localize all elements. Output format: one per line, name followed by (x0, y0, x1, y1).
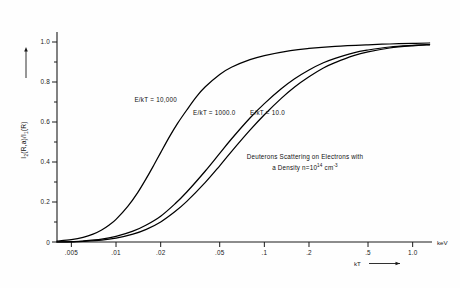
x-tick-label: .1 (261, 249, 267, 256)
curve-e-kt-10000 (57, 43, 430, 241)
caption-cm-text: cm (323, 164, 334, 171)
x-tick-label: .2 (306, 249, 312, 256)
caption-line-2: a Density n=1014 cm-3 (272, 163, 338, 172)
x-axis-title: kT (354, 260, 361, 267)
x-axis-unit-label: keV (437, 239, 449, 246)
curve-label-10000: E/kT = 10,000 (134, 96, 177, 103)
curve-label-10: E/kT = 10.0 (250, 109, 285, 116)
y-axis-arrow-head (24, 47, 28, 52)
y-tick-label: 0.4 (41, 158, 51, 165)
figure-container: 0.20.40.60.81.0 .005.01.02.05.1.2.51.0 E… (0, 0, 460, 288)
y-axis-ticks (52, 42, 57, 242)
x-axis-tick-labels: .005.01.02.05.1.2.51.0 (65, 249, 418, 256)
caption-density-text: a Density n=10 (272, 164, 317, 172)
y-axis-title: I2(R,a)/I1(R) (20, 121, 29, 158)
x-tick-label: .05 (215, 249, 225, 256)
x-tick-label: 1.0 (408, 249, 418, 256)
origin-label: 0 (46, 239, 50, 246)
curve-e-kt-10 (57, 45, 430, 242)
y-title-part-3: (R) (20, 121, 28, 131)
curve-e-kt-1000 (57, 45, 430, 242)
caption-exponent-minus3: -3 (333, 163, 338, 168)
y-tick-label: 1.0 (41, 38, 51, 45)
y-axis-tick-labels: 0.20.40.60.81.0 (41, 38, 51, 205)
x-tick-label: .01 (111, 249, 121, 256)
y-title-part-2: (R,a)/I (20, 134, 28, 154)
y-tick-label: 0.6 (41, 118, 51, 125)
x-axis-ticks (71, 242, 412, 247)
caption-line-1: Deuterons Scattering on Electrons with (247, 153, 364, 161)
curve-label-1000: E/kT = 1000.0 (193, 109, 236, 116)
y-tick-label: 0.2 (41, 198, 51, 205)
chart-canvas: 0.20.40.60.81.0 .005.01.02.05.1.2.51.0 E… (0, 0, 460, 288)
x-tick-label: .5 (365, 249, 371, 256)
x-tick-label: .02 (156, 249, 166, 256)
y-tick-label: 0.8 (41, 78, 51, 85)
x-axis-arrow-head (396, 262, 401, 266)
x-tick-label: .005 (65, 249, 78, 256)
